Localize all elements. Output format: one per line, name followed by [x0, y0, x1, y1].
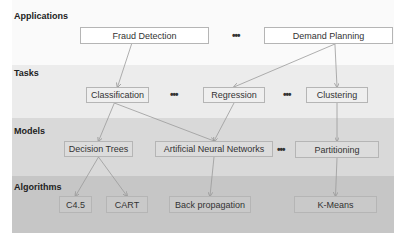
node-cart: CART	[106, 196, 148, 213]
layer-label-applications: Applications	[14, 11, 68, 21]
node-clustering: Clustering	[306, 87, 368, 103]
node-partitioning: Partitioning	[295, 141, 379, 158]
node-k-means: K-Means	[294, 196, 377, 213]
layer-label-algorithms: Algorithms	[14, 182, 62, 192]
node-demand-planning: Demand Planning	[264, 27, 393, 44]
node-classification: Classification	[86, 87, 149, 103]
ellipsis-applications: •••	[232, 30, 240, 41]
node-regression: Regression	[203, 87, 265, 103]
ellipsis-tasks-1: •••	[170, 89, 178, 100]
node-fraud-detection: Fraud Detection	[80, 27, 209, 44]
node-artificial-neural-networks: Artificial Neural Networks	[155, 141, 273, 157]
layer-label-tasks: Tasks	[14, 68, 39, 78]
layer-label-models: Models	[14, 126, 45, 136]
ellipsis-models: •••	[277, 144, 285, 155]
ellipsis-tasks-2: •••	[283, 89, 291, 100]
node-c45: C4.5	[59, 196, 92, 213]
node-back-propagation: Back propagation	[169, 196, 251, 213]
node-decision-trees: Decision Trees	[64, 141, 133, 157]
